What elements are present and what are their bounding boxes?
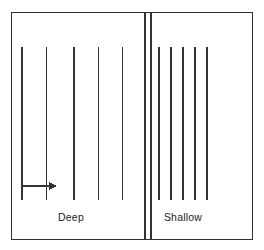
deep-label: Deep xyxy=(58,211,84,223)
figure-canvas: Deep Shallow xyxy=(0,0,264,250)
figure-background xyxy=(0,0,264,250)
shallow-label: Shallow xyxy=(164,211,202,223)
figure-root: Deep Shallow xyxy=(0,0,264,250)
